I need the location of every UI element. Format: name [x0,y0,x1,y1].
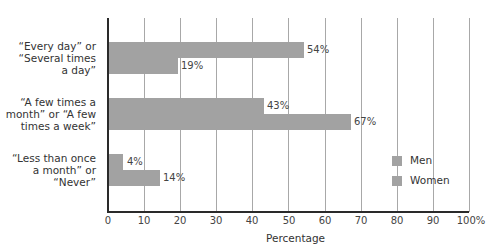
data-label: 43% [267,100,289,111]
bar-women-cat2 [109,170,160,186]
x-tick-label: 30 [210,215,223,226]
legend-label-women: Women [410,174,450,186]
data-label: 14% [163,172,185,183]
bar-men-cat2 [109,154,123,170]
legend-swatch-women [392,176,402,186]
category-label-line: month” or “A few [0,108,96,120]
x-tick-label: 70 [355,215,368,226]
x-tick-label: 100% [457,215,486,226]
x-tick-label: 60 [319,215,332,226]
category-label-line: a day” [0,64,96,76]
bar-men-cat1 [109,98,264,114]
bar-women-cat1 [109,114,351,130]
x-tick-label: 0 [105,215,111,226]
category-label-line: “Several times [0,52,96,64]
x-axis-title: Percentage [266,232,325,244]
x-tick-label: 80 [391,215,404,226]
gridline-70 [361,18,362,212]
category-label-line: times a week” [0,120,96,132]
x-tick-label: 10 [138,215,151,226]
x-axis [107,211,469,213]
data-label: 4% [127,156,143,167]
category-label-line: “Never” [0,176,96,188]
legend-swatch-men [392,156,402,166]
x-tick-label: 20 [174,215,187,226]
category-label-2: “Less than once a month” or “Never” [0,152,96,188]
x-tick-label: 90 [427,215,440,226]
y-axis [107,18,109,213]
category-label-1: “A few times a month” or “A few times a … [0,96,96,132]
bar-men-cat0 [109,42,304,58]
category-label-0: “Every day” or “Several times a day” [0,40,96,76]
category-label-line: a month” or [0,164,96,176]
bar-chart: 54% 19% 43% 67% 4% 14% 0 10 20 30 40 50 … [0,0,497,250]
bar-women-cat0 [109,58,178,74]
x-tick-label: 50 [283,215,296,226]
data-label: 67% [354,116,376,127]
legend-label-men: Men [410,154,432,166]
category-label-line: “Every day” or [0,40,96,52]
data-label: 19% [181,60,203,71]
gridline-100 [469,18,470,212]
category-label-line: “A few times a [0,96,96,108]
x-tick-label: 40 [246,215,259,226]
category-label-line: “Less than once [0,152,96,164]
data-label: 54% [307,44,329,55]
